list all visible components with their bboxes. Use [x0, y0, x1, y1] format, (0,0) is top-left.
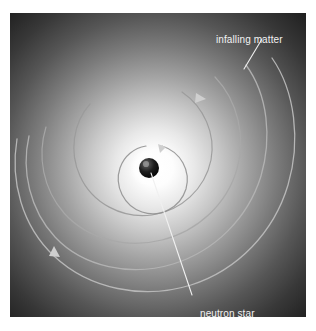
rotation-arrow-lower-left: [49, 246, 60, 257]
label-infalling-matter: infalling matter: [216, 34, 283, 46]
figure-root: infalling matter neutron star: [0, 0, 316, 331]
neutron-star-object: [130, 149, 168, 187]
rotation-arrow-center: [158, 144, 166, 153]
diagram-panel: infalling matter neutron star: [10, 13, 306, 317]
label-neutron-star: neutron star: [200, 308, 255, 317]
neutron-star-body: [139, 158, 159, 178]
rotation-arrow-upper-right: [195, 93, 206, 103]
neutron-star-specular-highlight: [143, 161, 149, 167]
spiral-scene: [10, 13, 306, 317]
leader-line-neutron-star: [151, 173, 192, 295]
